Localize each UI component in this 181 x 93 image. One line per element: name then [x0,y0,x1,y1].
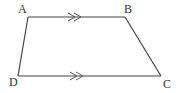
edge-bc [125,17,161,76]
edge-da [18,17,28,76]
trapezium-diagram: A B C D [0,0,181,93]
vertex-label-a: A [18,2,27,16]
vertex-label-d: D [9,75,18,89]
vertex-label-b: B [124,2,132,16]
vertex-label-c: C [163,77,171,91]
diagram-canvas: A B C D [0,0,181,93]
